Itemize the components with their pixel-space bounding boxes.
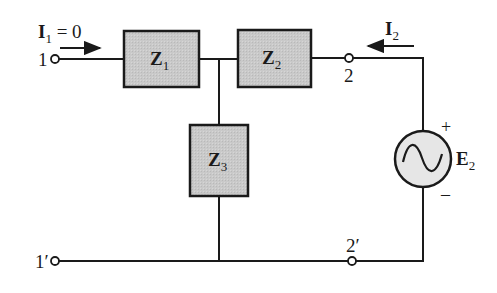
source-minus-sign: – xyxy=(440,184,451,204)
terminal-1-prime xyxy=(51,257,59,265)
terminal-1-prime-label: 1′ xyxy=(35,251,49,272)
terminal-2-prime xyxy=(348,257,356,265)
terminal-1-label: 1 xyxy=(38,49,48,70)
source-label-e2: E2 xyxy=(456,148,475,173)
wire-t2-to-source xyxy=(353,58,423,131)
circuit-diagram: Z1 Z2 Z3 + – E2 I1 = 0 I2 1 1′ 2 2′ xyxy=(0,0,497,293)
terminal-2-prime-label: 2′ xyxy=(346,235,360,256)
current-i1-label: I1 = 0 xyxy=(38,21,82,46)
wire-t2p-to-source xyxy=(356,187,423,261)
source-plus-sign: + xyxy=(441,117,451,137)
terminal-2 xyxy=(345,54,353,62)
ac-voltage-source xyxy=(395,131,451,187)
current-i2-label: I2 xyxy=(385,18,399,43)
terminal-2-label: 2 xyxy=(344,65,354,86)
terminal-1 xyxy=(51,55,59,63)
